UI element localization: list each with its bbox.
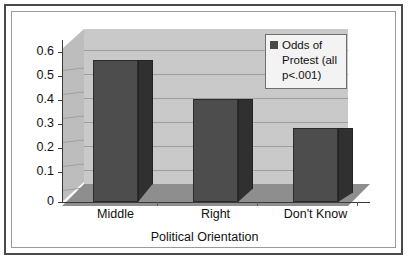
x-category-label-dont-know: Don't Know xyxy=(268,208,363,222)
chart-legend[interactable]: Odds of Protest (all p<.001) xyxy=(265,34,347,89)
x-tick-mark-3 xyxy=(357,202,358,206)
y-tick-mark-0 xyxy=(58,202,62,203)
bar-dont-know[interactable] xyxy=(293,128,338,202)
legend-label-line-3: p<.001) xyxy=(282,68,337,83)
x-category-label-right: Right xyxy=(173,208,258,222)
y-tick-mark-0.4 xyxy=(58,100,62,101)
x-tick-mark-1 xyxy=(157,202,158,206)
chart-outer-frame: 0.6 0.5 0.4 0.3 0.2 0.1 0 xyxy=(4,4,403,255)
bar-dont-know-front xyxy=(293,128,338,202)
y-tick-mark-0.5 xyxy=(58,76,62,77)
y-tick-label-0.5: 0.5 xyxy=(14,69,54,82)
x-tick-mark-2 xyxy=(257,202,258,206)
y-tick-mark-0.1 xyxy=(58,172,62,173)
y-tick-mark-0.2 xyxy=(58,148,62,149)
legend-label-line-1: Odds of xyxy=(282,38,337,53)
y-tick-label-0.4: 0.4 xyxy=(14,93,54,106)
chart-plot-area: 0.6 0.5 0.4 0.3 0.2 0.1 0 xyxy=(12,12,397,249)
bar-middle-front xyxy=(93,60,138,202)
chart-inner-frame: 0.6 0.5 0.4 0.3 0.2 0.1 0 xyxy=(11,11,396,248)
y-axis-line xyxy=(62,40,63,202)
bar-right-front xyxy=(193,99,238,202)
y-tick-mark-0.3 xyxy=(58,124,62,125)
x-axis-title: Political Orientation xyxy=(12,230,397,244)
gridline-left-0.5 xyxy=(62,76,84,96)
bar-right[interactable] xyxy=(193,99,238,202)
y-tick-label-0.6: 0.6 xyxy=(14,45,54,58)
gridline-left-0.4 xyxy=(62,100,84,120)
x-axis-line xyxy=(62,202,370,203)
bar-middle[interactable] xyxy=(93,60,138,202)
legend-color-swatch-icon xyxy=(270,41,278,49)
bar-right-side xyxy=(238,99,253,202)
bar-middle-side xyxy=(138,60,153,202)
gridline-left-0.3 xyxy=(62,124,84,144)
legend-label-line-2: Protest (all xyxy=(282,53,337,68)
gridline-left-0.2 xyxy=(62,148,84,168)
bar-dont-know-side xyxy=(338,128,353,202)
y-tick-label-0.3: 0.3 xyxy=(14,117,54,130)
y-tick-mark-0.6 xyxy=(58,52,62,53)
gridline-left-0.6 xyxy=(62,52,84,72)
x-category-label-middle: Middle xyxy=(73,208,158,222)
y-tick-label-0.1: 0.1 xyxy=(14,165,54,178)
y-tick-label-0: 0 xyxy=(14,195,54,208)
y-tick-label-0.2: 0.2 xyxy=(14,141,54,154)
legend-entry-label: Odds of Protest (all p<.001) xyxy=(282,38,337,84)
